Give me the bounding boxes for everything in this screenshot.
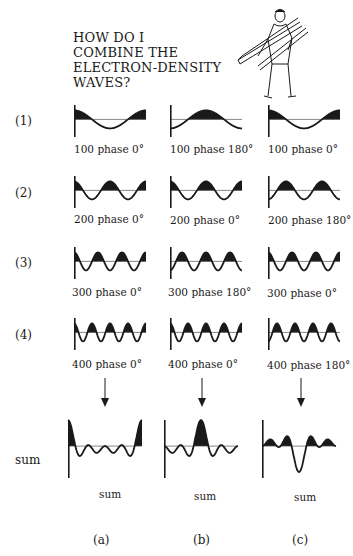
diagram-title: HOW DO I COMBINE THE ELECTRON-DENSITY WA…	[73, 30, 221, 90]
caption: 200 phase 0°	[170, 214, 240, 226]
row-label-1: (1)	[15, 114, 32, 128]
row-label-4: (4)	[15, 328, 32, 342]
caption: 100 phase 0°	[268, 143, 338, 155]
caption: 200 phase 0°	[74, 213, 144, 225]
caption: sum	[99, 488, 121, 500]
caption: 200 phase 180°	[268, 214, 351, 226]
wave-300-col-2	[268, 247, 344, 279]
caption: 400 phase 180°	[267, 359, 350, 371]
illustration-man-with-planks	[228, 4, 323, 104]
wave-100-col-1	[170, 105, 246, 137]
caption: 100 phase 0°	[74, 143, 144, 155]
row-label-2: (2)	[15, 186, 32, 200]
arrow-down-icon	[197, 378, 207, 408]
row-label-3: (3)	[15, 256, 32, 270]
arrow-down-icon	[100, 378, 110, 408]
sum-wave-col-1	[164, 420, 242, 478]
caption: 300 phase 180°	[168, 286, 251, 298]
caption: 300 phase 0°	[72, 286, 142, 298]
wave-200-col-2	[268, 176, 344, 208]
caption: 400 phase 0°	[168, 358, 238, 370]
wave-400-col-0	[74, 318, 150, 350]
sum-wave-col-0	[68, 420, 146, 478]
wave-100-col-0	[74, 105, 150, 137]
row-label-sum: sum	[15, 453, 40, 467]
arrow-down-icon	[296, 378, 306, 408]
wave-200-col-1	[170, 176, 246, 208]
caption: 300 phase 0°	[267, 287, 337, 299]
caption: sum	[194, 490, 216, 502]
wave-400-col-2	[268, 318, 344, 350]
column-label-b: (b)	[193, 533, 210, 547]
wave-300-col-1	[170, 247, 246, 279]
caption: 400 phase 0°	[72, 358, 142, 370]
wave-300-col-0	[74, 247, 150, 279]
sum-wave-col-2	[262, 420, 340, 478]
caption: 100 phase 180°	[170, 143, 253, 155]
caption: sum	[294, 491, 316, 503]
wave-100-col-2	[268, 105, 344, 137]
column-label-c: (c)	[292, 533, 308, 547]
wave-200-col-0	[74, 176, 150, 208]
man-icon	[228, 4, 323, 104]
column-label-a: (a)	[93, 533, 110, 547]
wave-400-col-1	[170, 318, 246, 350]
